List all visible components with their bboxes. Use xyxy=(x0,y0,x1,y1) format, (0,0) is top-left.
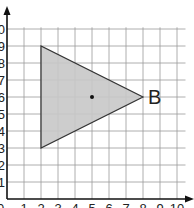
svg-text:0: 0 xyxy=(0,201,4,208)
svg-text:5: 5 xyxy=(88,201,95,208)
svg-text:7: 7 xyxy=(122,201,129,208)
svg-text:6: 6 xyxy=(105,201,112,208)
svg-text:4: 4 xyxy=(71,201,78,208)
svg-text:2: 2 xyxy=(37,201,44,208)
svg-text:1: 1 xyxy=(0,175,5,190)
coordinate-grid: 12345678910 123456789100 B xyxy=(0,0,194,208)
svg-text:8: 8 xyxy=(0,56,5,71)
svg-text:2: 2 xyxy=(0,158,5,173)
svg-text:1: 1 xyxy=(20,201,27,208)
vertex-label-b: B xyxy=(148,86,161,108)
svg-text:9: 9 xyxy=(0,39,5,54)
svg-text:7: 7 xyxy=(0,73,5,88)
svg-text:5: 5 xyxy=(0,107,5,122)
svg-text:3: 3 xyxy=(54,201,61,208)
center-point xyxy=(90,95,94,99)
y-axis-arrow-icon xyxy=(4,6,11,15)
x-axis-arrow-icon xyxy=(185,196,194,203)
svg-text:8: 8 xyxy=(139,201,146,208)
svg-text:3: 3 xyxy=(0,141,5,156)
svg-text:6: 6 xyxy=(0,90,5,105)
svg-text:10: 10 xyxy=(0,22,5,37)
x-tick-labels: 123456789100 xyxy=(0,201,184,208)
y-tick-labels: 12345678910 xyxy=(0,22,5,190)
svg-text:10: 10 xyxy=(170,201,184,208)
svg-text:4: 4 xyxy=(0,124,5,139)
svg-text:9: 9 xyxy=(156,201,163,208)
